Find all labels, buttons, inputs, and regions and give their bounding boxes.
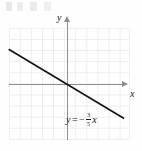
equation-fraction: 3 5 xyxy=(86,112,92,127)
fraction-denominator: 5 xyxy=(87,121,90,128)
y-axis-arrow-icon xyxy=(64,16,70,22)
equation-minus-sign: − xyxy=(79,115,85,125)
fraction-numerator: 3 xyxy=(87,112,90,119)
equation-equals-sign: = xyxy=(72,115,78,125)
coordinate-plane-figure: y x y = − 3 5 x xyxy=(0,0,142,151)
equation-label: y = − 3 5 x xyxy=(66,112,97,127)
equation-lhs: y xyxy=(66,115,70,125)
x-axis-arrow-icon xyxy=(122,81,128,87)
y-axis-label: y xyxy=(57,13,61,23)
equation-variable: x xyxy=(92,115,96,125)
x-axis-label: x xyxy=(130,89,134,99)
scan-artifact xyxy=(6,2,62,11)
